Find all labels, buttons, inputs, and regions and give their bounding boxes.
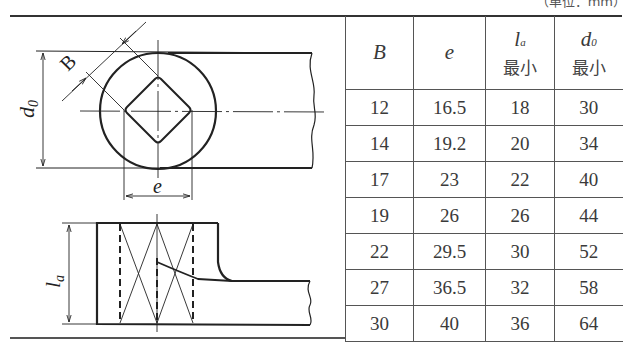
square-shaft-end-drawing: B d0 e la [0,0,345,358]
cell-d0: 44 [555,198,623,234]
cell-B: 22 [346,234,414,270]
unit-note: （单位：mm） [536,0,626,10]
cell-B: 17 [346,162,414,198]
dimension-table: B e la最小 d0最小 12 16.5 18 30 14 19.2 20 3… [345,16,623,342]
cell-d0: 64 [555,306,623,342]
end-view: B d0 e [14,22,328,200]
cell-B: 19 [346,198,414,234]
cell-la: 26 [486,198,555,234]
cell-la: 22 [486,162,555,198]
cell-e: 23 [414,162,486,198]
header-la: la最小 [486,16,555,90]
label-la: la [40,275,67,288]
table-row: 19 26 26 44 [346,198,623,234]
cell-e: 40 [414,306,486,342]
cell-la: 18 [486,90,555,126]
cell-la: 30 [486,234,555,270]
cell-B: 12 [346,90,414,126]
cell-e: 36.5 [414,270,486,306]
cell-d0: 30 [555,90,623,126]
table-row: 17 23 22 40 [346,162,623,198]
header-d0: d0最小 [555,16,623,90]
cell-B: 14 [346,126,414,162]
cell-la: 20 [486,126,555,162]
table-header-row: B e la最小 d0最小 [346,16,623,90]
cell-d0: 40 [555,162,623,198]
cell-e: 19.2 [414,126,486,162]
cell-e: 16.5 [414,90,486,126]
cell-d0: 58 [555,270,623,306]
table-row: 12 16.5 18 30 [346,90,623,126]
header-e: e [414,16,486,90]
table-row: 22 29.5 30 52 [346,234,623,270]
table-row: 27 36.5 32 58 [346,270,623,306]
cell-la: 32 [486,270,555,306]
cell-e: 29.5 [414,234,486,270]
table-row: 14 19.2 20 34 [346,126,623,162]
side-view: la [40,214,311,332]
table-row: 30 40 36 64 [346,306,623,342]
cell-d0: 52 [555,234,623,270]
label-d0: d0 [14,100,41,118]
cell-B: 30 [346,306,414,342]
label-B: B [55,50,80,75]
header-B: B [346,16,414,90]
cell-d0: 34 [555,126,623,162]
cell-e: 26 [414,198,486,234]
cell-la: 36 [486,306,555,342]
cell-B: 27 [346,270,414,306]
label-e: e [153,175,162,197]
